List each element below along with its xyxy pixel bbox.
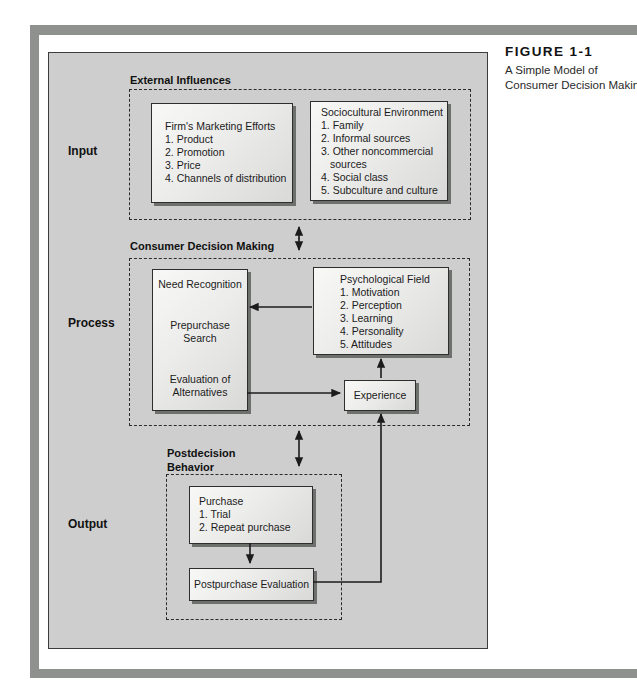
frame-bottom-bar: [30, 669, 637, 678]
socio-box-item: 3. Other noncommercial: [321, 145, 447, 158]
need-box-line: Prepurchase Search: [158, 319, 242, 345]
postdecision-title-line1: Postdecision: [167, 447, 235, 461]
socio-box-item: 2. Informal sources: [321, 132, 447, 145]
socio-box-item-continuation: sources: [321, 158, 447, 171]
figure-number: FIGURE 1-1: [505, 44, 637, 59]
firm-box-item: 4. Channels of distribution: [165, 172, 292, 185]
textbook-figure-page: FIGURE 1-1 A Simple Model of Consumer De…: [0, 0, 637, 699]
purchase-box: Purchase 1. Trial 2. Repeat purchase: [189, 486, 313, 544]
purchase-box-heading: Purchase: [199, 495, 312, 508]
need-box-line: Need Recognition: [158, 278, 242, 291]
consumer-decision-making-title: Consumer Decision Making: [130, 240, 274, 254]
postpurchase-evaluation-box: Postpurchase Evaluation: [189, 568, 314, 601]
firm-marketing-efforts-box: Firm's Marketing Efforts 1. Product 2. P…: [151, 103, 293, 203]
socio-box-item: 4. Social class: [321, 171, 447, 184]
firm-box-item: 3. Price: [165, 159, 292, 172]
psych-box-item: 1. Motivation: [340, 286, 448, 299]
frame-top-bar: [30, 25, 637, 35]
external-influences-title: External Influences: [130, 74, 231, 88]
postpurchase-label: Postpurchase Evaluation: [194, 578, 309, 591]
figure-caption-line1: A Simple Model of: [505, 63, 637, 78]
psych-box-item: 4. Personality: [340, 325, 448, 338]
figure-caption: FIGURE 1-1 A Simple Model of Consumer De…: [505, 44, 637, 93]
stage-label-process: Process: [68, 316, 115, 330]
stage-label-output: Output: [68, 517, 107, 531]
purchase-box-item: 1. Trial: [199, 508, 312, 521]
postdecision-behavior-title: Postdecision Behavior: [167, 447, 235, 474]
purchase-box-item: 2. Repeat purchase: [199, 521, 312, 534]
firm-box-item: 1. Product: [165, 133, 292, 146]
psych-box-item: 5. Attitudes: [340, 338, 448, 351]
frame-left-bar: [30, 25, 39, 678]
psychological-field-box: Psychological Field 1. Motivation 2. Per…: [313, 267, 449, 355]
psych-box-heading: Psychological Field: [340, 273, 448, 286]
sociocultural-environment-box: Sociocultural Environment 1. Family 2. I…: [310, 101, 448, 201]
socio-box-heading: Sociocultural Environment: [321, 106, 447, 119]
socio-box-item: 1. Family: [321, 119, 447, 132]
need-box-line: Evaluation of Alternatives: [158, 373, 242, 399]
figure-panel: Input Process Output External Influences…: [48, 52, 488, 649]
experience-label: Experience: [354, 389, 407, 402]
figure-caption-line2: Consumer Decision Making: [505, 78, 637, 93]
firm-box-item: 2. Promotion: [165, 146, 292, 159]
socio-box-item: 5. Subculture and culture: [321, 184, 447, 197]
psych-box-item: 2. Perception: [340, 299, 448, 312]
stage-label-input: Input: [68, 144, 97, 158]
firm-box-heading: Firm's Marketing Efforts: [165, 120, 292, 133]
psych-box-item: 3. Learning: [340, 312, 448, 325]
experience-box: Experience: [344, 380, 416, 411]
need-recognition-box: Need Recognition Prepurchase Search Eval…: [152, 269, 248, 411]
postdecision-title-line2: Behavior: [167, 461, 235, 475]
